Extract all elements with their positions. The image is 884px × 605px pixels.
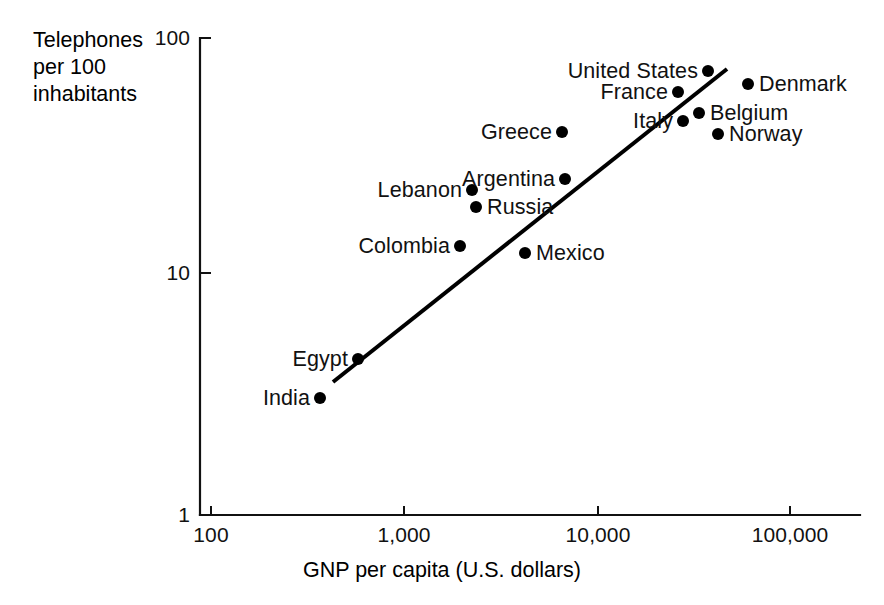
data-point-dot: [742, 78, 754, 90]
data-point-dot: [314, 392, 326, 404]
y-tick-label: 10: [0, 261, 190, 285]
data-point-label: Denmark: [759, 72, 847, 97]
data-point-dot: [693, 107, 705, 119]
x-tick-label: 1,000: [377, 523, 430, 547]
data-point-label: Egypt: [293, 347, 348, 372]
x-axis-title: GNP per capita (U.S. dollars): [0, 558, 884, 583]
data-point-dot: [556, 126, 568, 138]
data-point-dot: [559, 173, 571, 185]
data-point-label: Mexico: [536, 241, 605, 266]
data-point-dot: [519, 247, 531, 259]
data-point-dot: [454, 240, 466, 252]
data-point-label: Greece: [481, 120, 552, 145]
data-point-label: India: [263, 386, 310, 411]
x-tick-label: 100,000: [752, 523, 829, 547]
data-point-label: Colombia: [358, 234, 450, 259]
y-tick-label: 1: [0, 503, 190, 527]
data-point-dot: [712, 128, 724, 140]
data-point-label: Lebanon: [378, 178, 462, 203]
x-tick-label: 10,000: [566, 523, 631, 547]
data-point-dot: [470, 201, 482, 213]
data-point-label: Norway: [729, 122, 802, 147]
data-point-dot: [352, 353, 364, 365]
x-tick-marks: [211, 506, 790, 515]
data-point-label: United States: [568, 59, 698, 84]
data-point-dot: [672, 86, 684, 98]
data-point-dot: [702, 65, 714, 77]
data-point-label: Italy: [633, 109, 673, 134]
y-tick-label: 100: [0, 26, 190, 50]
x-tick-label: 100: [193, 523, 228, 547]
telephones-vs-gnp-scatter-chart: Telephones per 100 inhabitants 1001,0001…: [0, 0, 884, 605]
data-point-label: Russia: [487, 195, 553, 220]
y-tick-marks: [200, 38, 211, 515]
data-point-dot: [677, 115, 689, 127]
data-point-label: Argentina: [462, 167, 555, 192]
